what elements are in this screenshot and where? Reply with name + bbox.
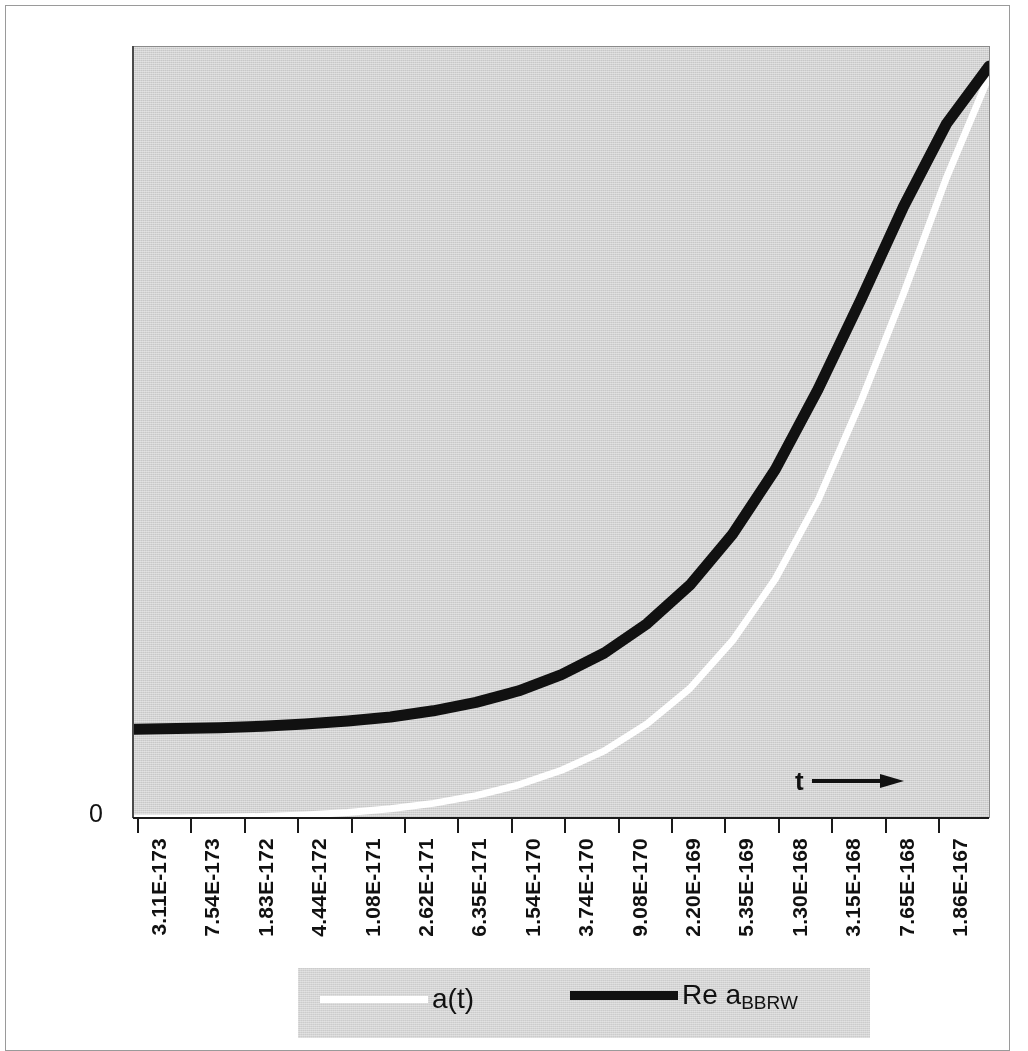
- t-axis-annotation: t: [795, 768, 904, 794]
- x-axis-tick-label: 1.83E-172: [254, 838, 278, 937]
- curves-svg: [134, 47, 989, 818]
- y-axis-line: [132, 46, 134, 818]
- x-axis-tick: [671, 818, 673, 833]
- x-axis-tick-label: 6.35E-171: [467, 838, 491, 937]
- right-arrow-icon: [812, 774, 904, 788]
- x-axis-tick-label: 1.86E-167: [948, 838, 972, 937]
- x-axis-tick-label: 3.11E-173: [147, 838, 171, 936]
- x-axis-tick: [457, 818, 459, 833]
- x-axis-tick: [244, 818, 246, 833]
- x-axis-tick: [831, 818, 833, 833]
- x-axis-tick: [938, 818, 940, 833]
- legend-label-a-of-t: a(t): [432, 985, 474, 1013]
- x-axis-tick-label: 9.08E-170: [628, 838, 652, 937]
- x-axis-tick: [351, 818, 353, 833]
- x-axis-tick: [190, 818, 192, 833]
- series-line-a-of-t: [134, 76, 989, 818]
- x-axis-tick-label: 1.30E-168: [788, 838, 812, 937]
- arrow-head: [880, 774, 904, 788]
- x-axis-tick: [137, 818, 139, 833]
- x-axis-line: [133, 817, 989, 819]
- legend-label-subscript: BBRW: [741, 992, 798, 1013]
- arrow-shaft: [812, 779, 886, 783]
- plot-area: [133, 46, 990, 818]
- y-axis-zero-label: 0: [89, 799, 103, 828]
- legend-label-main: Re a: [682, 979, 741, 1010]
- x-axis-tick: [511, 818, 513, 833]
- legend-item-a-of-t: a(t): [320, 985, 474, 1013]
- x-axis-tick-label: 1.54E-170: [521, 838, 545, 937]
- x-axis-tick-label: 5.35E-169: [734, 838, 758, 937]
- x-axis-tick-label: 2.20E-169: [681, 838, 705, 937]
- x-axis-tick-label: 7.65E-168: [895, 838, 919, 937]
- x-axis-tick-label: 7.54E-173: [200, 838, 224, 937]
- chart-legend: a(t) Re aBBRW: [298, 968, 870, 1038]
- t-annotation-label: t: [795, 768, 804, 794]
- x-axis-tick: [404, 818, 406, 833]
- x-axis-tick-label: 3.74E-170: [574, 838, 598, 937]
- x-axis-tick: [297, 818, 299, 833]
- x-axis-tick: [564, 818, 566, 833]
- x-axis-tick-label: 3.15E-168: [841, 838, 865, 937]
- x-axis-tick-label: 1.08E-171: [361, 838, 385, 937]
- x-axis-tick: [885, 818, 887, 833]
- x-axis-tick: [618, 818, 620, 833]
- x-axis-tick: [778, 818, 780, 833]
- x-axis-tick-label: 2.62E-171: [414, 838, 438, 937]
- x-axis-tick-label: 4.44E-172: [307, 838, 331, 937]
- legend-swatch-re-a-bbrw: [570, 991, 678, 1000]
- legend-item-re-a-bbrw: Re aBBRW: [570, 981, 798, 1009]
- legend-swatch-a-of-t: [320, 996, 428, 1003]
- legend-label-re-a-bbrw: Re aBBRW: [682, 981, 798, 1009]
- x-axis-tick: [724, 818, 726, 833]
